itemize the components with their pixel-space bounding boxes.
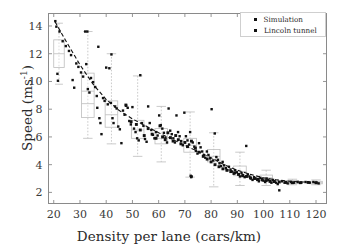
data-point [179,142,182,145]
y-tick-label: 10 [0,75,43,88]
data-point [312,181,314,183]
data-point [307,181,310,184]
data-point [117,125,119,127]
x-tick-label: 100 [253,208,274,221]
data-point [172,137,174,139]
data-point [147,105,149,107]
data-point [54,20,56,22]
data-point [161,135,164,138]
data-point [158,114,160,116]
data-point [149,122,151,124]
y-tick-label: 6 [0,130,43,143]
data-point [56,73,58,75]
data-point [68,50,70,52]
data-point [155,137,158,140]
data-point [96,95,98,97]
data-point [85,63,87,65]
data-point [296,181,298,183]
data-point [186,145,189,148]
data-point [108,67,110,69]
data-point [70,54,72,56]
data-point [134,131,136,133]
data-point [110,102,112,104]
data-point [278,189,280,191]
data-point [57,80,59,82]
data-point [143,134,146,137]
data-point [145,141,147,143]
data-point [88,91,90,93]
data-point [237,173,240,176]
data-point [180,140,182,142]
data-point [221,161,223,163]
legend-entry-lincoln-tunnel: Lincoln tunnel [247,25,317,36]
data-point [217,159,219,161]
data-point [178,135,180,137]
data-point [142,125,144,127]
scatter-series-lincoln-tunnel [124,104,317,185]
x-tick-label: 60 [152,208,166,221]
data-point [304,181,306,183]
legend-marker-square-icon [254,18,257,21]
data-point [245,145,247,147]
data-point [189,131,191,133]
data-point [175,114,177,116]
data-point [71,79,73,81]
data-point [90,77,92,79]
data-point [156,134,158,136]
data-point [138,139,140,141]
data-point [115,107,117,109]
data-point [147,127,150,130]
data-point [102,97,104,99]
data-point [133,127,135,129]
data-point [194,147,197,150]
data-point [114,105,116,107]
data-point [77,66,79,68]
y-tick-label: 8 [0,103,43,116]
data-point [261,178,264,181]
data-point [177,138,180,141]
data-point [65,45,67,47]
data-point [210,160,213,163]
data-point [110,53,112,55]
data-point [171,133,173,135]
data-point [172,140,175,143]
x-tick-label: 40 [99,208,113,221]
data-point [209,157,211,159]
legend-marker-dot-icon [254,29,258,33]
legend-label-lincoln-tunnel: Lincoln tunnel [264,26,317,35]
data-point [139,129,142,132]
data-point [144,138,146,140]
x-tick-label: 70 [178,208,192,221]
x-tick-label: 30 [73,208,87,221]
data-point [195,150,197,152]
data-point [150,129,152,131]
data-point [233,172,236,175]
data-point [207,154,209,156]
x-tick-label: 80 [204,208,218,221]
data-point [80,71,82,73]
data-point [75,62,77,64]
data-point [315,181,318,184]
data-point [107,103,109,105]
data-point [198,151,201,154]
data-point [103,100,105,102]
data-point [291,181,294,184]
y-axis-title-close: ) [19,65,35,70]
data-point [123,114,125,116]
data-point [191,175,193,177]
data-point [234,169,236,171]
data-point [155,131,157,133]
data-point [136,137,138,139]
data-point [269,180,272,183]
data-point [86,30,88,32]
x-axis-title: Density per lane (cars/km) [0,228,338,244]
data-point [223,164,225,166]
data-point [105,66,107,68]
data-point [221,167,224,170]
data-point [151,133,154,136]
data-point [245,175,248,178]
data-point [119,128,121,130]
data-point [73,87,75,89]
data-point [265,179,268,182]
fit-trend-line [55,22,319,183]
